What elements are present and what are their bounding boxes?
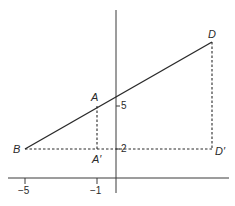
coordinate-diagram: B A D A′ D′ 5 2 −5 −1 xyxy=(0,0,235,206)
diagram-canvas xyxy=(0,0,235,206)
x-tick-label-minus-1: −1 xyxy=(90,186,101,196)
y-tick-label-5: 5 xyxy=(121,101,127,111)
point-label-d-prime: D′ xyxy=(215,146,225,157)
y-tick-label-2: 2 xyxy=(121,144,127,154)
line-bd xyxy=(25,42,212,149)
point-label-d: D xyxy=(208,29,216,40)
point-label-b: B xyxy=(13,144,20,155)
point-label-a: A xyxy=(91,92,98,103)
point-label-a-prime: A′ xyxy=(92,154,101,165)
x-tick-label-minus-5: −5 xyxy=(18,186,29,196)
